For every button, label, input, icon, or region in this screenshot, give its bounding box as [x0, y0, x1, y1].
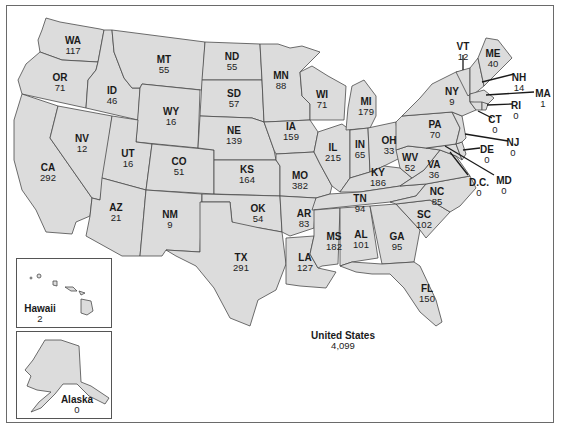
label-co: CO51: [172, 157, 187, 177]
label-tx: TX291: [233, 253, 249, 273]
label-mt: MT55: [157, 55, 171, 75]
label-ky: KY186: [370, 168, 386, 188]
label-ut: UT16: [121, 149, 134, 169]
label-ia: IA159: [283, 122, 299, 142]
ri-leader: [487, 104, 512, 105]
label-ma: MA1: [535, 89, 551, 109]
label-ar: AR83: [297, 209, 311, 229]
label-wa: WA117: [65, 36, 81, 56]
label-la: LA127: [297, 253, 313, 273]
label-md: MD0: [496, 176, 512, 196]
label-sc: SC102: [416, 210, 432, 230]
label-ne: NE139: [226, 126, 242, 146]
label-united-states-total: United States4,099: [311, 331, 375, 351]
label-mn: MN88: [273, 71, 289, 91]
label-nv: NV12: [75, 134, 89, 154]
label-or: OR71: [53, 73, 68, 93]
label-de: DE0: [480, 145, 494, 165]
label-il: IL215: [325, 143, 341, 163]
nj-leader: [465, 134, 508, 141]
label-nd: ND55: [225, 52, 239, 72]
label-me: ME40: [486, 49, 501, 69]
label-id: ID46: [107, 86, 118, 106]
label-wy: WY16: [163, 107, 179, 127]
label-ct: CT0: [488, 115, 501, 135]
label-vt: VT12: [457, 42, 470, 62]
label-nm: NM9: [162, 210, 178, 230]
label-nj: NJ0: [507, 138, 520, 158]
label-in: IN65: [355, 140, 366, 160]
label-sd: SD57: [227, 89, 241, 109]
label-ga: GA95: [390, 232, 405, 252]
label-al: AL101: [353, 230, 369, 250]
label-va: VA36: [427, 160, 440, 180]
label-az: AZ21: [109, 203, 122, 223]
label-ok: OK54: [251, 204, 266, 224]
label-tn: TN94: [353, 194, 366, 214]
label-ri: RI0: [511, 101, 521, 121]
label-ca: CA292: [40, 163, 56, 183]
label-hawaii: Hawaii2: [24, 304, 56, 324]
label-oh: OH33: [382, 136, 397, 156]
label-ny: NY9: [445, 87, 459, 107]
label-nc: NC85: [430, 187, 444, 207]
label-dc: D.C.0: [469, 178, 489, 198]
de-leader: [463, 148, 480, 150]
label-mi: MI179: [358, 97, 374, 117]
label-alaska: Alaska0: [61, 395, 93, 415]
label-wi: WI71: [316, 90, 328, 110]
ma-leader: [486, 92, 534, 95]
label-nh: NH14: [512, 73, 526, 93]
label-pa: PA70: [428, 120, 441, 140]
label-fl: FL150: [419, 284, 435, 304]
label-ms: MS182: [326, 232, 342, 252]
label-wv: WV52: [402, 153, 418, 173]
label-ks: KS164: [239, 165, 255, 185]
label-mo: MO382: [292, 171, 308, 191]
